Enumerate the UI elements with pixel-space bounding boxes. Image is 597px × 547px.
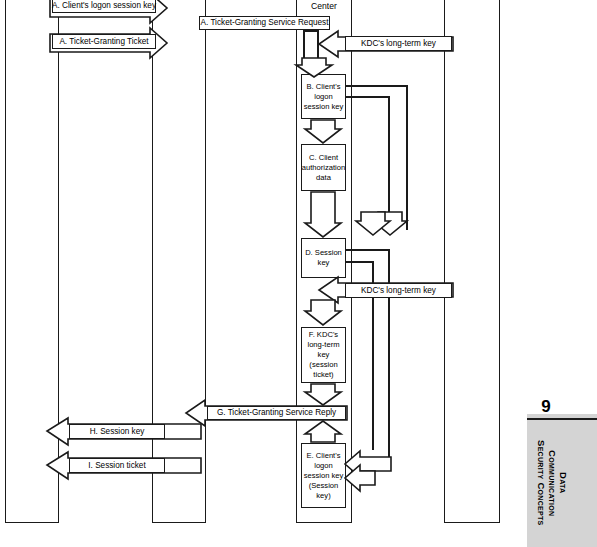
margin-title-line-1: Data (558, 424, 569, 542)
page-number: 9 (527, 398, 565, 415)
page-number-rule (527, 418, 597, 420)
process-box-D: D. Session key (301, 238, 346, 278)
rail-B-out-bot (346, 96, 390, 98)
message-label-K2: KDC's long-term key (345, 283, 452, 298)
message-label-K1: KDC's long-term key (345, 36, 452, 51)
connector-A3-base (303, 30, 319, 32)
flow-arrow-into-F (305, 300, 343, 326)
rail-D-out-bot (346, 261, 374, 263)
flow-arrow-E-to-G (305, 421, 343, 443)
message-label-H: H. Session key (69, 424, 165, 439)
message-label-G: G. Ticket-Granting Service Reply (207, 406, 346, 420)
diagram-page: Center A. Client's logon session key A. … (0, 0, 597, 547)
rail-D-out-top (346, 249, 390, 251)
flow-arrow-C-to-D (305, 192, 343, 238)
rail-B-out-bot-v (388, 96, 390, 230)
column-header-center: Center (311, 1, 337, 11)
flow-arrow-B-to-C (305, 120, 343, 144)
process-box-E: E. Client's logon session key (Session k… (301, 443, 346, 508)
lifeline-4 (444, 0, 500, 523)
message-label-A1: A. Client's logon session key (52, 0, 156, 13)
flow-arrow-into-B (296, 58, 334, 78)
process-box-C: C. Client authorization data (301, 144, 346, 191)
process-box-F: F. KDC's long-term key (session ticket) (301, 327, 346, 383)
flow-arrow-rail-B-head-2 (355, 212, 391, 236)
message-label-I: I. Session ticket (69, 458, 165, 473)
flow-arrow-rail-D-head-2 (344, 466, 376, 490)
rail-B-out-top (346, 85, 408, 87)
margin-title-line-2: Communication (547, 424, 558, 542)
margin-running-title: Data Communication Security Concepts (527, 424, 569, 542)
message-label-A3: A. Ticket-Granting Service Request (199, 16, 330, 30)
margin-title-line-3: Security Concepts (536, 424, 547, 542)
process-box-B: B. Client's logon session key (301, 74, 346, 119)
rail-B-out-top-v (406, 85, 408, 230)
message-label-A2: A. Ticket-Granting Ticket (52, 34, 156, 49)
